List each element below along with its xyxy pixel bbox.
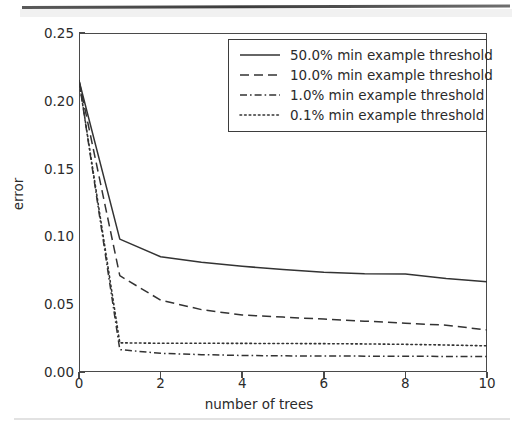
legend-item-label: 0.1% min example threshold [283, 108, 484, 122]
x-axis-tick-label: 4 [222, 376, 262, 391]
legend-item-label: 10.0% min example threshold [283, 68, 493, 82]
x-axis-tick-label: 8 [385, 376, 425, 391]
y-axis-tick-label: 0.20 [28, 94, 74, 108]
y-axis-tick-label: 0.10 [28, 229, 74, 243]
legend-item: 0.1% min example threshold [237, 105, 478, 125]
legend-line-swatch [237, 68, 283, 82]
y-axis-tick-label: 0.25 [28, 26, 74, 40]
y-axis-tick-label: 0.05 [28, 297, 74, 311]
chart-legend: 50.0% min example threshold10.0% min exa… [228, 39, 487, 132]
x-axis-tick-label: 10 [467, 376, 507, 391]
x-axis-tick-labels: 0246810 [0, 376, 518, 396]
legend-item: 50.0% min example threshold [237, 45, 478, 65]
legend-line-swatch [237, 108, 283, 122]
x-axis-tick-label: 6 [304, 376, 344, 391]
legend-item: 1.0% min example threshold [237, 85, 478, 105]
legend-item: 10.0% min example threshold [237, 65, 478, 85]
chart-figure: error 0.000.050.100.150.200.25 0246810 n… [0, 18, 518, 418]
legend-item-label: 50.0% min example threshold [283, 48, 493, 62]
x-axis-label: number of trees [0, 396, 518, 412]
legend-line-swatch [237, 48, 283, 62]
scan-artifact-rule-bottom [14, 418, 510, 420]
x-axis-tick-label: 0 [59, 376, 99, 391]
y-axis-tick-labels: 0.000.050.100.150.200.25 [24, 18, 74, 418]
legend-line-swatch [237, 88, 283, 102]
legend-item-label: 1.0% min example threshold [283, 88, 484, 102]
x-axis-tick-label: 2 [141, 376, 181, 391]
y-axis-tick-label: 0.15 [28, 162, 74, 176]
scan-artifact-band-top [20, 9, 512, 17]
